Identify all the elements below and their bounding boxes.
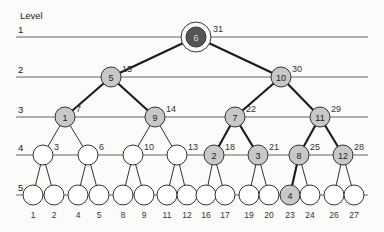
tree-node: 722 (225, 104, 256, 127)
leaf-number: 24 (305, 210, 315, 220)
node-label: 6 (193, 33, 198, 43)
node-side-number: 15 (122, 64, 132, 74)
node-circle (215, 185, 235, 205)
node-side-number: 13 (188, 142, 198, 152)
leaf-number: 4 (76, 210, 81, 220)
node-label: 10 (276, 73, 286, 83)
node-circle (259, 185, 279, 205)
node-circle (196, 185, 216, 205)
node-circle (177, 185, 197, 205)
node-label: 1 (62, 113, 67, 123)
tree-nodes: 6315151030179147221129361013218321825122… (23, 22, 364, 220)
leaf-number: 17 (220, 210, 230, 220)
tree-node: 423 (280, 185, 300, 220)
tree-node: 3 (33, 142, 59, 165)
node-circle (113, 185, 133, 205)
tree-node: 4 (68, 185, 88, 220)
tree-node: 1129 (310, 104, 341, 127)
node-circle (239, 185, 259, 205)
node-circle (44, 185, 64, 205)
node-circle (157, 185, 177, 205)
node-circle (134, 185, 154, 205)
node-side-number: 31 (213, 24, 223, 34)
node-label: 9 (152, 113, 157, 123)
tree-diagram: Level 12345 6315151030179147221129361013… (0, 0, 384, 232)
node-label: 7 (232, 113, 237, 123)
leaf-number: 8 (121, 210, 126, 220)
tree-node: 2 (44, 185, 64, 220)
level-number: 2 (18, 64, 23, 75)
leaf-number: 2 (52, 210, 57, 220)
level-number: 1 (18, 24, 23, 35)
leaf-number: 5 (97, 210, 102, 220)
leaf-number: 12 (182, 210, 192, 220)
node-side-number: 18 (225, 142, 235, 152)
node-side-number: 30 (292, 64, 302, 74)
node-circle (23, 185, 43, 205)
node-label: 5 (108, 73, 113, 83)
node-circle (123, 145, 143, 165)
level-number: 3 (18, 104, 23, 115)
node-side-number: 3 (54, 142, 59, 152)
tree-node: 17 (215, 185, 235, 220)
leaf-number: 1 (31, 210, 36, 220)
tree-node: 8 (113, 185, 133, 220)
node-side-number: 6 (99, 142, 104, 152)
leaf-number: 11 (163, 210, 172, 220)
node-side-number: 14 (166, 104, 176, 114)
leaf-number: 27 (349, 210, 359, 220)
tree-node: 1030 (271, 64, 302, 87)
node-label: 3 (255, 151, 260, 161)
tree-node: 515 (101, 64, 132, 87)
leaf-number: 9 (142, 210, 147, 220)
node-side-number: 22 (246, 104, 256, 114)
node-circle (68, 185, 88, 205)
node-circle (167, 145, 187, 165)
leaf-number: 16 (201, 210, 211, 220)
tree-node: 9 (134, 185, 154, 220)
node-circle (344, 185, 364, 205)
node-side-number: 25 (310, 142, 320, 152)
tree-node: 11 (157, 185, 177, 220)
leaf-number: 26 (329, 210, 339, 220)
node-side-number: 28 (354, 142, 364, 152)
leaf-number: 23 (285, 210, 295, 220)
tree-node: 16 (196, 185, 216, 220)
node-circle (89, 185, 109, 205)
leaf-number: 19 (244, 210, 254, 220)
leaf-number: 20 (264, 210, 274, 220)
level-number: 5 (18, 182, 23, 193)
tree-node: 20 (259, 185, 279, 220)
tree-node: 12 (177, 185, 197, 220)
tree-edges (33, 37, 354, 195)
tree-node: 1 (23, 185, 43, 220)
node-label: 11 (315, 113, 324, 123)
tree-node: 914 (145, 104, 176, 127)
node-side-number: 10 (144, 142, 154, 152)
node-label: 12 (338, 151, 348, 161)
node-side-number: 29 (331, 104, 341, 114)
tree-node: 5 (89, 185, 109, 220)
tree-node: 19 (239, 185, 259, 220)
tree-node: 26 (324, 185, 344, 220)
node-side-number: 21 (269, 142, 279, 152)
node-circle (33, 145, 53, 165)
node-label: 4 (287, 191, 292, 201)
node-label: 2 (211, 151, 216, 161)
node-circle (78, 145, 98, 165)
node-circle (324, 185, 344, 205)
tree-node: 17 (55, 104, 81, 127)
node-side-number: 7 (76, 104, 81, 114)
node-circle (300, 185, 320, 205)
tree-node: 24 (300, 185, 320, 220)
level-heading: Level (20, 10, 43, 21)
node-label: 8 (296, 151, 301, 161)
level-number: 4 (18, 142, 23, 153)
tree-node: 27 (344, 185, 364, 220)
